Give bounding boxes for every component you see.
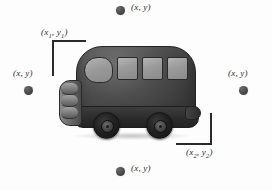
bus-ground-shadow [73, 132, 191, 140]
bus-side-window [167, 57, 188, 80]
bbox-label-bottom-right: (x2, y2) [186, 147, 213, 159]
point-label-top: (x, y) [131, 2, 151, 12]
bus-side-window [142, 57, 163, 80]
point-marker-top [116, 6, 125, 15]
bus-front-wheel [93, 112, 120, 139]
bbox-bracket-arm-horizontal [52, 40, 86, 42]
bumper-ridge [61, 95, 78, 107]
toy-bus-illustration [57, 44, 197, 144]
bbox-label-top-left: (x1, y1) [41, 27, 68, 39]
bus-side-window [117, 57, 138, 80]
bumper-ridge [61, 83, 78, 95]
bus-rear-wheel [146, 112, 173, 139]
wheel-hub-icon [154, 120, 167, 133]
point-marker-right [239, 86, 248, 95]
point-label-right: (x, y) [228, 68, 248, 78]
bbox-bracket-arm-vertical [210, 113, 212, 145]
bus-windshield-window [84, 57, 113, 83]
bus-front-bumper [59, 80, 82, 126]
bus-rear-bumper [185, 106, 201, 120]
bus-chassis-skirt [73, 106, 199, 128]
bbox-bracket-arm-vertical [52, 40, 54, 76]
wheel-hub-icon [101, 120, 114, 133]
bumper-ridge [61, 107, 78, 119]
point-label-left: (x, y) [13, 68, 33, 78]
point-marker-bottom [116, 167, 125, 176]
point-label-bottom: (x, y) [131, 163, 151, 173]
point-marker-left [24, 86, 33, 95]
figure-canvas: (x1, y1) (x2, y2) (x, y) (x, y) (x, y) (… [0, 0, 272, 190]
